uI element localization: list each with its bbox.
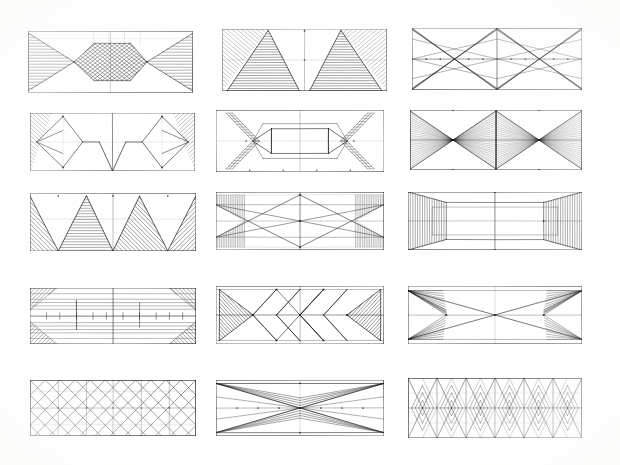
panel-label: Mirrored multi-line X lattice with centr…: [412, 90, 413, 91]
panel-drawing-gridded-nested-diamonds: [408, 378, 582, 438]
panel-drawing-rectangle-arrowheads-ladder: [216, 110, 384, 172]
panel-label: Crossed long diagonals with vertical rul…: [216, 250, 217, 251]
sketch-panel-8: Crossed long diagonals with vertical rul…: [216, 192, 384, 250]
ink-group: [216, 192, 384, 250]
sketch-panel-4: Paired diamonds with corner diagonal hat…: [30, 113, 195, 171]
panel-drawing-diamonds-corner-hatch: [30, 113, 195, 171]
panel-label: Zigzag bands of parallel diagonal hatchi…: [30, 251, 31, 252]
sketch-panel-3: Mirrored multi-line X lattice with centr…: [412, 28, 582, 90]
ink-group: [30, 113, 195, 171]
sketch-panel-5: Central rectangle between arrowheads wit…: [216, 110, 384, 172]
ink-group: [408, 286, 582, 344]
sketch-panel-14: Wide double bowtie with sparse ray lines: [216, 380, 384, 436]
sketch-panel-10: Horizontal banded panel with hatched cor…: [30, 288, 196, 344]
ink-group: [412, 28, 582, 90]
sketch-sheet: Opposed hatched cones with central cross…: [0, 0, 620, 465]
panel-drawing-tunnel-ribbed-ends: [408, 192, 582, 250]
sketch-panel-6: Two dense fan-hatched bowtie cells side …: [410, 110, 582, 170]
sketch-panel-9: Perspective tunnel with ribbed end panel…: [408, 192, 582, 250]
panel-drawing-zigzag-diagonal-bands: [30, 193, 196, 251]
sketch-panel-15: Gridded lattice with repeated nested dia…: [408, 378, 582, 438]
panel-drawing-crossed-diagonals-ruled-ends: [216, 192, 384, 250]
panel-drawing-double-x-lattice: [412, 28, 582, 90]
ink-group: [30, 288, 196, 344]
panel-label: Two dense fan-hatched bowtie cells side …: [410, 170, 411, 171]
panel-label: Dense overall diamond net lattice: [30, 436, 31, 437]
panel-drawing-cones-lozenge-crosshatch: [28, 31, 193, 93]
panel-label: Wide double bowtie with sparse ray lines: [216, 436, 217, 437]
panel-drawing-diamond-row-hatched-ends: [216, 286, 384, 344]
ink-group: [216, 110, 384, 172]
sketch-panel-13: Dense overall diamond net lattice: [30, 380, 196, 436]
panel-drawing-twin-triangles-hatched: [222, 29, 387, 91]
sketch-panel-7: Zigzag bands of parallel diagonal hatchi…: [30, 193, 196, 251]
panel-drawing-radiating-fans: [408, 286, 582, 344]
panel-label: Gridded lattice with repeated nested dia…: [408, 438, 409, 439]
ink-group: [30, 380, 196, 436]
ink-group: [28, 31, 193, 93]
ink-group: [410, 110, 582, 170]
panel-drawing-double-bowtie-fan: [410, 110, 582, 170]
panel-label: Horizontal banded panel with hatched cor…: [30, 344, 31, 345]
panel-label: Perspective tunnel with ribbed end panel…: [408, 250, 409, 251]
panel-label: Row of squares on point flanked by hatch…: [216, 344, 217, 345]
panel-label: Twin hatched triangles rising from base …: [222, 91, 223, 92]
panel-label: Opposed hatched cones with central cross…: [28, 93, 29, 94]
panel-drawing-diamond-net: [30, 380, 196, 436]
ink-group: [216, 380, 384, 436]
panel-grid: Opposed hatched cones with central cross…: [0, 0, 620, 465]
sketch-panel-11: Row of squares on point flanked by hatch…: [216, 286, 384, 344]
panel-label: Central rectangle between arrowheads wit…: [216, 172, 217, 173]
ink-group: [408, 192, 582, 250]
ink-group: [222, 29, 387, 91]
panel-drawing-sparse-bowtie-rays: [216, 380, 384, 436]
ink-group: [30, 193, 196, 251]
panel-label: Paired diamonds with corner diagonal hat…: [30, 171, 31, 172]
panel-drawing-banded-wedges-ticks: [30, 288, 196, 344]
sketch-panel-1: Opposed hatched cones with central cross…: [28, 31, 193, 93]
panel-label: Radiating line fans converging to end po…: [408, 344, 409, 345]
sketch-panel-2: Twin hatched triangles rising from base …: [222, 29, 387, 91]
ink-group: [216, 286, 384, 344]
ink-group: [408, 378, 582, 438]
sketch-panel-12: Radiating line fans converging to end po…: [408, 286, 582, 344]
